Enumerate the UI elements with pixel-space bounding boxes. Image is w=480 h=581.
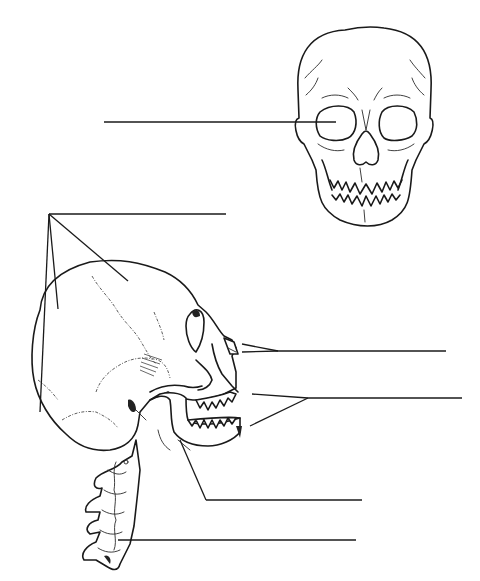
skull-illustration [0, 0, 480, 581]
skull-diagram [0, 0, 480, 581]
lateral-skull [32, 260, 242, 450]
cervical-vertebrae [83, 440, 140, 570]
anterior-skull [295, 27, 432, 226]
